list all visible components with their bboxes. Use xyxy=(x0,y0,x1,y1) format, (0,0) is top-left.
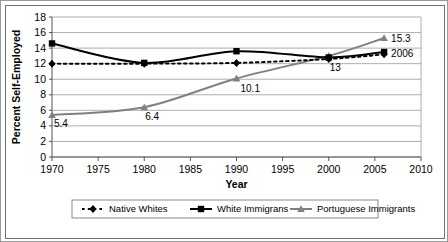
data-label-2006: 2006 xyxy=(391,48,414,59)
y-tick-label: 2 xyxy=(40,135,46,147)
legend-marker-square xyxy=(198,206,204,212)
x-tick-label: 2010 xyxy=(409,163,433,175)
y-tick-label: 4 xyxy=(40,119,46,131)
y-tick-label: 0 xyxy=(40,151,46,163)
data-label-13: 13 xyxy=(330,62,342,73)
y-tick-label: 14 xyxy=(34,42,46,54)
x-tick-label: 1970 xyxy=(40,163,64,175)
x-tick-label: 1975 xyxy=(86,163,110,175)
series-line-portuguese-immigrants xyxy=(52,38,384,115)
x-axis-title: Year xyxy=(225,178,247,190)
y-tick-label: 8 xyxy=(40,88,46,100)
x-tick-label: 2005 xyxy=(363,163,387,175)
data-point-portuguese-immigrants xyxy=(380,34,388,41)
legend-label-white-immigrans: White Immigrans xyxy=(217,203,289,214)
series-line-white-immigrans xyxy=(52,43,384,63)
data-label-10-1: 10.1 xyxy=(241,83,261,94)
x-tick-label: 1980 xyxy=(133,163,157,175)
data-point-white-immigrans xyxy=(233,48,239,54)
data-point-native-whites xyxy=(48,60,55,68)
x-tick-label: 1985 xyxy=(179,163,203,175)
legend-label-native-whites: Native Whites xyxy=(109,203,168,214)
y-tick-label: 18 xyxy=(34,11,46,23)
line-chart: 0246810121416181970197519801985199019952… xyxy=(0,0,448,242)
x-tick-label: 1990 xyxy=(225,163,249,175)
x-tick-label: 2000 xyxy=(317,163,341,175)
legend-label-portuguese-immigrants: Portuguese Immigrants xyxy=(317,203,415,214)
data-label-6-4: 6.4 xyxy=(145,111,159,122)
y-tick-label: 10 xyxy=(34,73,46,85)
y-axis-title: Percent Self-Employed xyxy=(10,30,22,144)
data-point-white-immigrans xyxy=(49,40,55,46)
y-tick-label: 6 xyxy=(40,104,46,116)
y-tick-label: 16 xyxy=(34,26,46,38)
data-label-5-4: 5.4 xyxy=(54,118,68,129)
data-point-native-whites xyxy=(233,59,240,67)
data-label-15-3: 15.3 xyxy=(391,33,411,44)
y-tick-label: 12 xyxy=(34,57,46,69)
x-tick-label: 1995 xyxy=(271,163,295,175)
